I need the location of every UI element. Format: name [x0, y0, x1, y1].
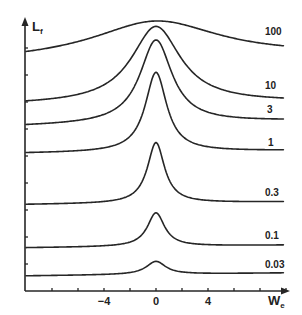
x-axis-label: We	[268, 293, 285, 310]
series-label-3: 3	[267, 104, 273, 115]
x-tick-labels: −404	[98, 295, 212, 307]
curve-100	[26, 21, 283, 52]
y-axis-arrow-icon	[22, 17, 29, 26]
series-label-0-3: 0.3	[265, 187, 279, 198]
curve-group	[26, 21, 283, 276]
curve-1	[26, 72, 283, 152]
curve-10	[26, 26, 283, 100]
y-axis-label: Lf	[32, 19, 43, 36]
series-labels: 10010310.30.10.03	[265, 26, 285, 270]
series-label-0-03: 0.03	[265, 259, 285, 270]
series-label-10: 10	[265, 80, 277, 91]
curve-0-1	[26, 213, 283, 248]
series-label-100: 100	[265, 26, 282, 37]
axes	[22, 17, 291, 295]
lf-vs-we-chart: −404 10010310.30.10.03 Lf We	[0, 0, 302, 315]
curve-0-03	[26, 261, 283, 275]
curve-3	[26, 40, 283, 125]
series-label-1: 1	[268, 137, 274, 148]
series-label-0-1: 0.1	[265, 230, 279, 241]
x-tick-label: −4	[98, 295, 111, 307]
x-tick-label: 0	[153, 295, 159, 307]
x-tick-label: 4	[205, 295, 212, 307]
